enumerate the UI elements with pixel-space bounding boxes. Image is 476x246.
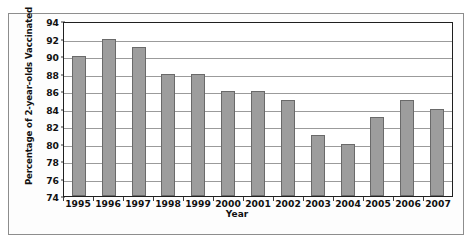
bar (341, 144, 355, 197)
bar (72, 56, 86, 196)
bar-slot (213, 23, 243, 196)
y-axis-tick-label: 84 (31, 104, 59, 115)
x-axis-tick-label: 2000 (213, 198, 243, 209)
y-axis-tick-label: 86 (31, 87, 59, 98)
bar-slot (273, 23, 303, 196)
bar-slot (333, 23, 363, 196)
bar (281, 100, 295, 196)
y-axis-tick-label: 90 (31, 52, 59, 63)
bar-slot (183, 23, 213, 196)
x-axis-tick-label: 2001 (243, 198, 273, 209)
bar-slot (154, 23, 184, 196)
y-axis-tick-label: 78 (31, 157, 59, 168)
bar (251, 91, 265, 196)
y-axis-tick-label: 88 (31, 69, 59, 80)
x-axis-tick-label: 1996 (93, 198, 123, 209)
x-axis-tick-label: 2007 (423, 198, 453, 209)
y-axis-tick-labels: 7476788082848688909294 (31, 14, 59, 236)
chart-frame: Percentage of 2-year-olds Vaccinated 747… (8, 13, 464, 235)
x-axis-tick-mark (303, 197, 304, 201)
x-axis-tick-label: 1999 (183, 198, 213, 209)
y-axis-tick-label: 82 (31, 122, 59, 133)
x-axis-tick-mark (423, 197, 424, 201)
bar-slot (64, 23, 94, 196)
x-axis-tick-label: 1995 (63, 198, 93, 209)
bar (132, 47, 146, 196)
x-axis-tick-mark (213, 197, 214, 201)
bar (370, 117, 384, 196)
x-axis-tick-label: 1998 (153, 198, 183, 209)
x-axis-tick-mark (93, 197, 94, 201)
x-axis-title: Year (9, 209, 465, 219)
x-axis-tick-mark (183, 197, 184, 201)
bar (430, 109, 444, 197)
bar-slot (303, 23, 333, 196)
x-axis-tick-labels: 1995199619971998199920002001200220032004… (63, 198, 453, 209)
bar (400, 100, 414, 196)
x-axis-tick-label: 2005 (363, 198, 393, 209)
y-axis-tick-label: 94 (31, 17, 59, 28)
x-axis-tick-label: 2003 (303, 198, 333, 209)
x-axis-tick-mark (153, 197, 154, 201)
bar (311, 135, 325, 196)
bar-slot (422, 23, 452, 196)
x-axis-tick-label: 2004 (333, 198, 363, 209)
bar-slot (94, 23, 124, 196)
x-axis-tick-label: 2002 (273, 198, 303, 209)
x-axis-tick-mark (333, 197, 334, 201)
x-axis-tick-label: 2006 (393, 198, 423, 209)
y-axis-tick-label: 76 (31, 174, 59, 185)
x-axis-tick-mark (243, 197, 244, 201)
bar-chart-figure: Percentage of 2-year-olds Vaccinated 747… (0, 0, 476, 246)
x-axis-tick-mark (363, 197, 364, 201)
plot-area (63, 22, 453, 197)
bar-slot (362, 23, 392, 196)
y-axis-tick-label: 74 (31, 192, 59, 203)
bar-slot (243, 23, 273, 196)
bar (102, 39, 116, 197)
y-axis-tick-label: 80 (31, 139, 59, 150)
x-axis-tick-mark (123, 197, 124, 201)
bar-series (64, 23, 452, 196)
y-axis-tick-label: 92 (31, 34, 59, 45)
x-axis-tick-mark (63, 197, 64, 201)
bar-slot (124, 23, 154, 196)
x-axis-tick-mark (273, 197, 274, 201)
bar (191, 74, 205, 197)
x-axis-tick-mark (393, 197, 394, 201)
bar (161, 74, 175, 197)
bar (221, 91, 235, 196)
x-axis-tick-label: 1997 (123, 198, 153, 209)
bar-slot (392, 23, 422, 196)
